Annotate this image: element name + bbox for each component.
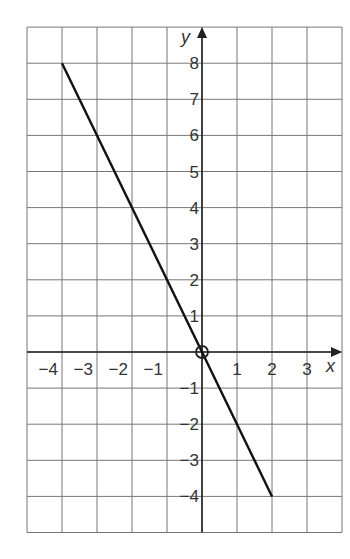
y-axis-label: y [179, 27, 191, 47]
line-graph: −4−3−2−112387654321−1−2−3−4 x y [0, 0, 350, 559]
svg-text:−1: −1 [180, 379, 199, 398]
x-axis-label: x [325, 356, 336, 376]
svg-text:−1: −1 [144, 360, 163, 379]
svg-text:5: 5 [190, 163, 199, 182]
svg-text:2: 2 [190, 271, 199, 290]
svg-text:−4: −4 [39, 360, 58, 379]
svg-text:7: 7 [190, 90, 199, 109]
svg-text:−4: −4 [180, 487, 199, 506]
svg-text:−2: −2 [109, 360, 128, 379]
svg-text:−2: −2 [180, 415, 199, 434]
svg-text:2: 2 [267, 360, 276, 379]
svg-text:8: 8 [190, 54, 199, 73]
svg-text:3: 3 [190, 235, 199, 254]
svg-text:−3: −3 [74, 360, 93, 379]
svg-text:1: 1 [190, 307, 199, 326]
svg-text:4: 4 [190, 199, 199, 218]
svg-text:3: 3 [302, 360, 311, 379]
svg-text:1: 1 [232, 360, 241, 379]
svg-text:−3: −3 [180, 451, 199, 470]
svg-text:6: 6 [190, 126, 199, 145]
